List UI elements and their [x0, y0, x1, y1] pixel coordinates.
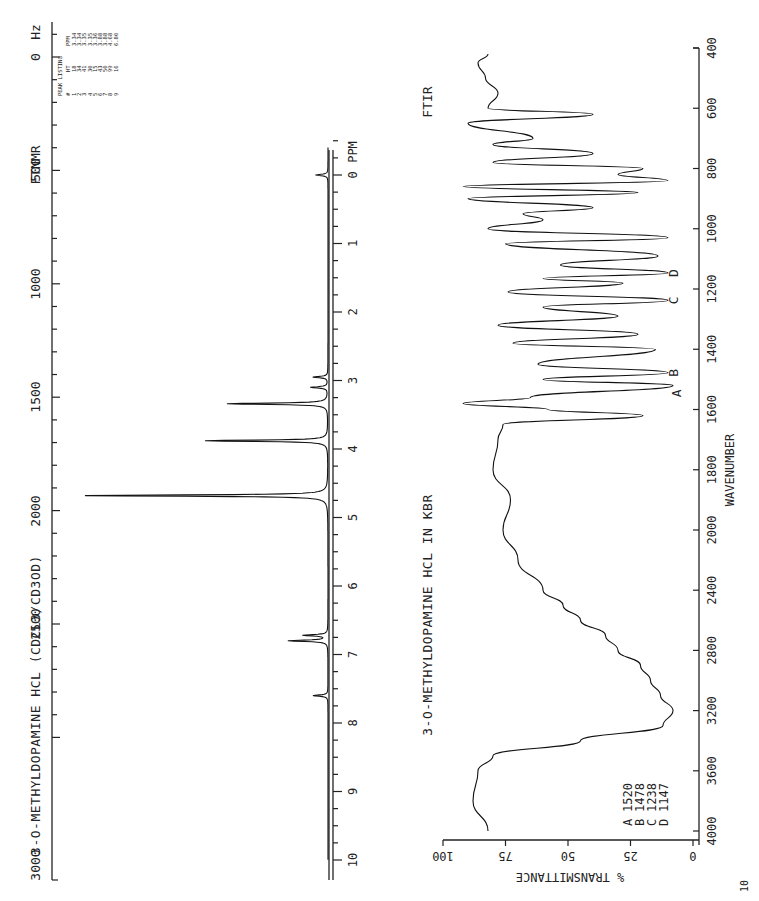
- ppm-tick-3: 3: [346, 377, 360, 384]
- ir-marker-C: C: [666, 297, 681, 305]
- wavenumber-axis-label: WAVENUMBER: [723, 433, 737, 506]
- nmr-technique-label: FTNMR: [28, 145, 43, 184]
- peak-listing-cell: 9: [113, 93, 119, 96]
- ppm-axis-label: PPM: [346, 141, 360, 163]
- hz-tick-1500: 1500: [28, 381, 43, 412]
- transmittance-axis-label: % TRANSMITTANCE: [516, 870, 624, 884]
- ir-transmittance-axis: 0255075100 % TRANSMITTANCE: [432, 840, 699, 884]
- ir-marker-A: A: [669, 389, 684, 397]
- wavenumber-tick-400: 400: [705, 37, 719, 59]
- ppm-tick-7: 7: [346, 651, 360, 658]
- ppm-tick-8: 8: [346, 719, 360, 726]
- ir-panel: FTIR 3-O-METHYLDOPAMINE HCL IN KBR 40060…: [420, 37, 737, 884]
- transmittance-tick-0: 0: [689, 849, 696, 863]
- wavenumber-tick-3200: 3200: [705, 696, 719, 725]
- ir-title: 3-O-METHYLDOPAMINE HCL IN KBR: [420, 494, 435, 735]
- hz-tick-0: 0: [28, 53, 43, 61]
- hz-tick-2000: 2000: [28, 495, 43, 526]
- ir-spectrum-trace: [463, 54, 673, 831]
- page-mark: 10: [739, 880, 750, 892]
- spectrum-sheet: Hz 0 500 1000 1500 2000 2500 3000 FTNMR …: [0, 0, 759, 901]
- ir-marker-D: D: [666, 269, 681, 277]
- wavenumber-tick-4000: 4000: [705, 817, 719, 846]
- ppm-tick-5: 5: [346, 514, 360, 521]
- ppm-tick-4: 4: [346, 445, 360, 452]
- wavenumber-tick-2800: 2800: [705, 636, 719, 665]
- nmr-ppm-axis: 012345678910 PPM: [329, 141, 360, 880]
- transmittance-tick-50: 50: [561, 849, 575, 863]
- ir-peak-markers: ABCD: [666, 269, 684, 397]
- ppm-tick-6: 6: [346, 582, 360, 589]
- nmr-peak-listing: PEAK LISTING #HTPPM1183.342343.343413.35…: [57, 32, 119, 96]
- nmr-title: 3-O-METHYLDOPAMINE HCL (CDCL3/CD3OD): [28, 555, 43, 855]
- transmittance-tick-100: 100: [432, 849, 454, 863]
- ppm-tick-10: 10: [346, 853, 360, 867]
- wavenumber-tick-1000: 1000: [705, 214, 719, 243]
- ir-technique-label: FTIR: [420, 86, 435, 117]
- peak-listing-title: PEAK LISTING: [57, 56, 63, 96]
- transmittance-tick-25: 25: [623, 849, 637, 863]
- ppm-tick-9: 9: [346, 788, 360, 795]
- wavenumber-tick-600: 600: [705, 97, 719, 119]
- wavenumber-tick-3600: 3600: [705, 756, 719, 785]
- ir-peak-table-value: 1147: [657, 783, 671, 812]
- ir-peak-table: A1520B1478C1238D1147: [621, 783, 671, 826]
- ir-marker-B: B: [666, 369, 681, 377]
- peak-listing-cell: 6.80: [113, 33, 119, 46]
- ir-peak-table-label: D: [657, 819, 671, 826]
- hz-axis-label: Hz: [28, 24, 43, 40]
- wavenumber-tick-1400: 1400: [705, 335, 719, 364]
- ppm-tick-2: 2: [346, 308, 360, 315]
- peak-listing-cell: 16: [113, 65, 119, 72]
- ppm-tick-1: 1: [346, 240, 360, 247]
- wavenumber-tick-1600: 1600: [705, 395, 719, 424]
- wavenumber-tick-1800: 1800: [705, 455, 719, 484]
- wavenumber-tick-1200: 1200: [705, 275, 719, 304]
- nmr-panel: Hz 0 500 1000 1500 2000 2500 3000 FTNMR …: [28, 22, 360, 881]
- wavenumber-tick-2000: 2000: [705, 516, 719, 545]
- hz-tick-1000: 1000: [28, 268, 43, 299]
- transmittance-tick-75: 75: [498, 849, 512, 863]
- wavenumber-tick-800: 800: [705, 158, 719, 180]
- ir-wavenumber-axis: 4006008001000120014001600180020002400280…: [693, 37, 737, 845]
- nmr-spectrum-trace: [85, 148, 328, 860]
- wavenumber-tick-2400: 2400: [705, 576, 719, 605]
- ppm-tick-0: 0: [346, 171, 360, 178]
